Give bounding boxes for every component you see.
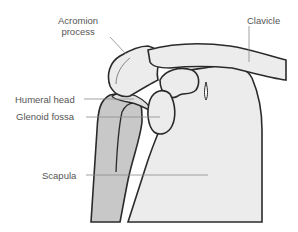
acromion-label-line1: Acromion xyxy=(58,15,98,26)
glenoid-shape xyxy=(148,91,175,134)
acromion-leader-line xyxy=(110,37,126,54)
ligament-mark xyxy=(205,82,208,100)
acromion-label: Acromion process xyxy=(58,15,98,37)
scapula-label: Scapula xyxy=(42,170,76,181)
humeral-head-label: Humeral head xyxy=(15,94,75,105)
clavicle-label: Clavicle xyxy=(247,15,280,26)
shoulder-diagram: Acromion process Clavicle Humeral head G… xyxy=(0,0,298,232)
glenoid-fossa-label: Glenoid fossa xyxy=(16,111,74,122)
acromion-label-line2: process xyxy=(58,26,98,37)
